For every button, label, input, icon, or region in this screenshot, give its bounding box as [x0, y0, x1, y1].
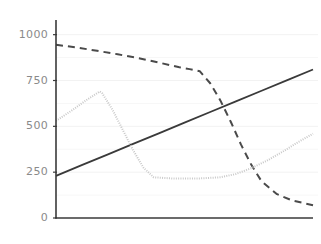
series-layer — [56, 45, 313, 205]
y-tick-label: 1000 — [19, 29, 48, 40]
chart-plot-area — [0, 0, 321, 244]
series-line-solid-rising-line — [56, 70, 313, 176]
series-line-dashed-falling-line — [56, 45, 313, 205]
y-tick-label: 250 — [26, 166, 48, 177]
y-tick-label: 0 — [41, 212, 48, 223]
chart-figure: 02505007501000 — [0, 0, 321, 244]
series-line-dotted-gray-line — [56, 92, 313, 179]
y-tick-label: 500 — [26, 120, 48, 131]
gridlines — [56, 35, 318, 195]
y-tick-label: 750 — [26, 75, 48, 86]
